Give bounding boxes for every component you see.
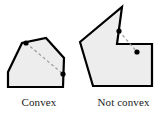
not-convex-panel <box>80 7 152 86</box>
not-convex-vertex-dot-c <box>116 28 121 33</box>
convex-vertex-dot-b <box>60 71 65 76</box>
not-convex-vertex-dot-d <box>134 49 139 54</box>
caption-not-convex: Not convex <box>82 96 165 108</box>
convex-panel <box>8 38 66 87</box>
caption-convex: Convex <box>0 96 78 108</box>
not-convex-polygon-shape <box>80 7 152 86</box>
geometry-figure: Convex Not convex <box>0 0 165 114</box>
convex-vertex-dot-a <box>23 40 28 45</box>
convex-polygon-shape <box>8 38 64 87</box>
